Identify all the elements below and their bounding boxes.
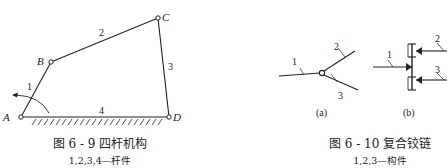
joint-label-c: C xyxy=(162,11,170,23)
joint-label-b: B xyxy=(37,55,44,67)
hinge-b-link-2: 2 xyxy=(435,33,440,44)
link-label-1: 1 xyxy=(27,81,32,92)
link-label-4: 4 xyxy=(99,105,104,116)
sub-b-label: (b) xyxy=(403,107,415,119)
sub-a-label: (a) xyxy=(316,107,327,119)
hinge-a-link-1: 1 xyxy=(292,56,297,67)
hinge-b-link-3: 3 xyxy=(435,64,440,75)
joint-a xyxy=(19,115,23,119)
figure-6-9-caption: 图 6 - 9 四杆机构 xyxy=(30,134,170,151)
joint-c xyxy=(156,16,160,20)
link-label-3: 3 xyxy=(168,61,173,72)
joint-b xyxy=(49,60,53,64)
hinge-a-link-2: 2 xyxy=(334,41,339,52)
four-bar-linkage xyxy=(12,18,169,125)
joint-label-a: A xyxy=(2,111,10,123)
hinge-a-link-3: 3 xyxy=(338,90,343,101)
joint-label-d: D xyxy=(172,111,181,123)
figure-6-10-subcaption: 1,2,3—构件 xyxy=(315,153,445,167)
compound-hinge-a xyxy=(279,48,358,90)
hinge-b-link-1: 1 xyxy=(387,49,392,60)
figure-6-10-caption: 图 6 - 10 复合铰链 xyxy=(315,134,445,151)
joint-d xyxy=(167,115,171,119)
link-label-2: 2 xyxy=(99,27,104,38)
figure-6-9-subcaption: 1,2,3,4—杆件 xyxy=(30,153,170,167)
